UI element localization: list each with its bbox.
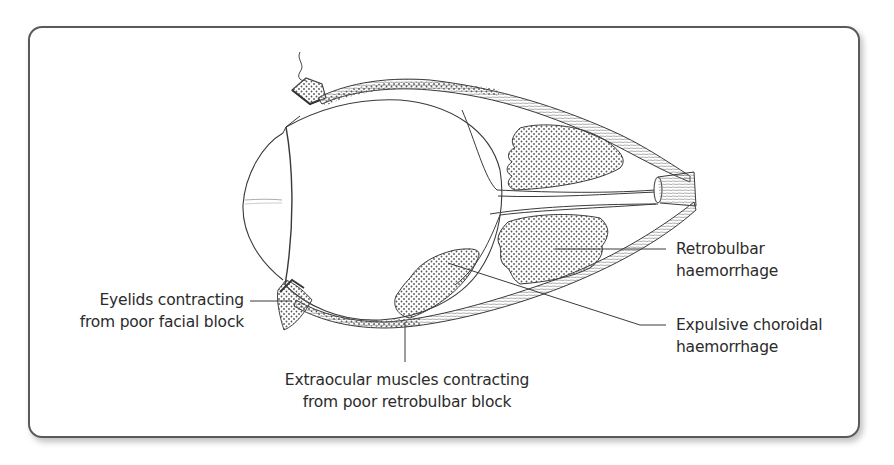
- label-retrobulbar-line1: Retrobulbar: [676, 238, 778, 260]
- label-choroidal-line1: Expulsive choroidal: [676, 314, 822, 336]
- label-retrobulbar: Retrobulbar haemorrhage: [676, 238, 778, 282]
- label-eyelids-line1: Eyelids contracting: [40, 289, 244, 311]
- label-choroidal-line2: haemorrhage: [676, 336, 822, 358]
- label-extraocular-line2: from poor retrobulbar block: [262, 391, 552, 413]
- inferior-muscle-band: [294, 202, 696, 328]
- superior-muscle-band: [318, 79, 690, 182]
- lower-orbital-cone: [455, 204, 656, 285]
- label-eyelids: Eyelids contracting from poor facial blo…: [40, 289, 244, 333]
- label-extraocular-line1: Extraocular muscles contracting: [262, 369, 552, 391]
- label-choroidal: Expulsive choroidal haemorrhage: [676, 314, 822, 358]
- label-extraocular: Extraocular muscles contracting from poo…: [262, 369, 552, 413]
- lower-eyelid: [277, 280, 312, 330]
- label-eyelids-line2: from poor facial block: [40, 311, 244, 333]
- label-retrobulbar-line2: haemorrhage: [676, 260, 778, 282]
- upper-eyelid: [292, 52, 326, 104]
